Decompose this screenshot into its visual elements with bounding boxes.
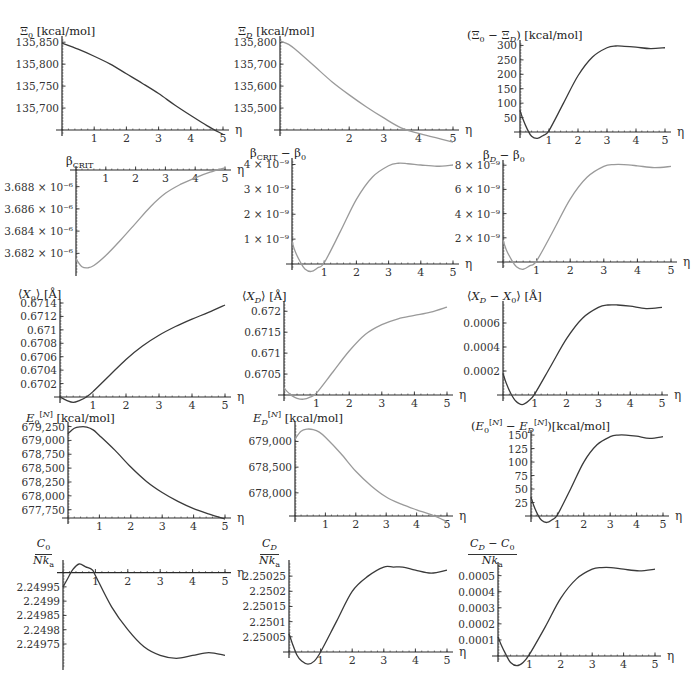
y-tick-label: 8 × 10⁻⁹ — [455, 159, 500, 171]
data-curve — [284, 307, 447, 399]
y-tick-label: 2.24975 — [17, 638, 60, 650]
y-tick-label: 135,500 — [234, 102, 277, 114]
x-tick-label: 3 — [162, 172, 169, 185]
x-tick-label: 5 — [662, 134, 669, 147]
y-tick-label: 135,850 — [16, 36, 59, 48]
plot-panel-EDN: ED[N] [kcal/mol]12345η678,000678,500679,… — [240, 412, 465, 534]
y-tick-label: 2.25005 — [243, 631, 286, 643]
plot-canvas: 12345η0.00010.00020.00030.00040.0005 — [465, 538, 695, 678]
x-tick-label: 4 — [633, 134, 640, 147]
y-tick-label: 0.0006 — [463, 317, 500, 329]
x-axis-label-eta: η — [675, 509, 682, 523]
x-tick-label: 1 — [96, 520, 103, 533]
x-tick-label: 3 — [604, 134, 611, 147]
x-tick-label: 4 — [187, 132, 194, 145]
y-tick-label: 0.6705 — [244, 368, 281, 380]
plot-canvas: 12345η0.67050.6710.67150.672 — [240, 285, 465, 407]
data-curve — [62, 43, 223, 134]
x-tick-label: 2 — [353, 266, 360, 279]
plot-panel-xi_diff: (Ξ0 − ΞD) [kcal/mol]12345η50100150200250… — [465, 18, 695, 138]
plot-canvas: 12345η2.249752.24982.249852.24992.24995 — [10, 538, 235, 678]
y-tick-label: 25 — [515, 497, 528, 509]
data-curve — [289, 566, 447, 664]
plot-panel-C0: C0Nka12345η2.249752.24982.249852.24992.2… — [10, 538, 235, 678]
y-tick-label: 0.6714 — [20, 297, 57, 309]
plot-canvas: 12345η678,000678,500679,000 — [240, 412, 465, 534]
y-tick-label: 2.2501 — [249, 616, 286, 628]
y-tick-label: 100 — [508, 456, 528, 468]
x-tick-label: 2 — [349, 654, 356, 667]
x-tick-label: 5 — [222, 172, 229, 185]
x-tick-label: 2 — [580, 518, 587, 531]
y-tick-label: 135,700 — [16, 102, 59, 114]
x-tick-label: 1 — [91, 132, 98, 145]
x-tick-label: 4 — [189, 399, 196, 412]
plot-panel-E_diff: (E0[N] − ED[N])[kcal/mol]12345η255075100… — [465, 412, 695, 534]
x-tick-label: 2 — [557, 658, 564, 671]
x-tick-label: 5 — [222, 399, 229, 412]
y-tick-label: 125 — [508, 443, 528, 455]
x-tick-label: 3 — [159, 520, 166, 533]
plot-canvas: 12345η1 × 10⁻⁹2 × 10⁻⁹3 × 10⁻⁹4 × 10⁻⁹ — [240, 152, 465, 277]
plot-canvas: 2345η135,500135,600135,700135,800 — [240, 18, 465, 138]
plot-panel-E0N: E0[N] [kcal/mol]12345η677,750678,000678,… — [10, 412, 235, 534]
y-tick-label: 679,000 — [22, 434, 65, 446]
x-tick-label: 1 — [322, 518, 329, 531]
y-tick-label: 678,500 — [22, 462, 65, 474]
plot-panel-betaD_minus_beta0: βD − β012345η2 × 10⁻⁹4 × 10⁻⁹6 × 10⁻⁹8 ×… — [465, 152, 695, 277]
y-tick-label: 0.672 — [251, 305, 281, 317]
plot-panel-CD: CDNka12345η2.250052.25012.250152.25022.2… — [240, 538, 465, 678]
x-tick-label: 5 — [450, 266, 457, 279]
x-axis-label-eta: η — [677, 125, 684, 139]
y-tick-label: 2.2502 — [249, 585, 286, 597]
y-tick-label: 0.671 — [251, 347, 281, 359]
data-curve — [295, 429, 447, 522]
x-tick-label: 2 — [346, 132, 353, 145]
x-tick-label: 3 — [155, 132, 162, 145]
x-tick-label: 4 — [189, 575, 196, 588]
x-tick-label: 4 — [413, 518, 420, 531]
x-tick-label: 5 — [660, 518, 667, 531]
plot-canvas: 12345η0.67020.67040.67060.67080.6710.671… — [10, 285, 235, 407]
y-tick-label: 678,750 — [22, 448, 65, 460]
x-tick-label: 3 — [385, 266, 392, 279]
y-tick-label: 135,800 — [234, 36, 277, 48]
x-tick-label: 1 — [531, 397, 538, 410]
y-tick-label: 678,250 — [22, 476, 65, 488]
x-tick-label: 4 — [634, 264, 641, 277]
plot-canvas: 12345η50100150200250300 — [465, 18, 695, 138]
x-tick-label: 1 — [313, 397, 320, 410]
y-tick-label: 3.686 × 10⁻⁶ — [4, 203, 73, 215]
y-tick-label: 300 — [497, 39, 517, 51]
plot-panel-CD_minus_C0: CD − C0Nka12345η0.00010.00020.00030.0004… — [465, 538, 695, 678]
data-curve — [60, 305, 225, 402]
y-tick-label: 3.682 × 10⁻⁶ — [4, 247, 73, 259]
y-tick-label: 0.0004 — [463, 341, 500, 353]
y-tick-label: 1 × 10⁻⁹ — [244, 233, 289, 245]
plot-canvas: 12345η0.00020.00040.0006 — [465, 285, 695, 407]
x-tick-label: 5 — [444, 654, 451, 667]
x-tick-label: 2 — [567, 264, 574, 277]
x-tick-label: 2 — [346, 397, 353, 410]
plot-panel-xD_minus_x0: ⟨XD − X0⟩ [Å]12345η0.00020.00040.0006 — [465, 285, 695, 407]
x-tick-label: 5 — [444, 397, 451, 410]
y-tick-label: 4 × 10⁻⁹ — [455, 208, 500, 220]
plot-panel-beta_crit_minus_beta0: βCRIT − β012345η1 × 10⁻⁹2 × 10⁻⁹3 × 10⁻⁹… — [240, 152, 465, 277]
y-tick-label: 0.671 — [27, 324, 57, 336]
y-tick-label: 50 — [504, 112, 517, 124]
data-curve — [292, 163, 453, 271]
y-tick-label: 0.6706 — [20, 351, 57, 363]
x-tick-label: 2 — [352, 518, 359, 531]
x-tick-label: 5 — [450, 132, 457, 145]
data-curve — [68, 427, 225, 519]
plot-panel-beta_crit: βCRIT12345η3.682 × 10⁻⁶3.684 × 10⁻⁶3.686… — [10, 152, 235, 277]
x-tick-label: 3 — [380, 132, 387, 145]
y-tick-label: 200 — [497, 68, 517, 80]
y-tick-label: 135,800 — [16, 58, 59, 70]
x-tick-label: 2 — [575, 134, 582, 147]
x-tick-label: 3 — [383, 518, 390, 531]
x-tick-label: 4 — [190, 520, 197, 533]
x-tick-label: 3 — [156, 399, 163, 412]
x-tick-label: 1 — [102, 172, 109, 185]
y-tick-label: 0.6712 — [20, 310, 57, 322]
